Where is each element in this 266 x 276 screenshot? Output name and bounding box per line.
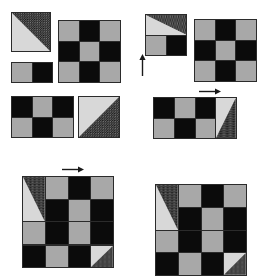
cell-black [202, 185, 224, 207]
cell-gray [179, 253, 201, 275]
cell-triangle-speckled [156, 185, 178, 230]
cell-gray [202, 231, 224, 253]
cell-gray [202, 208, 224, 230]
cell-black [224, 231, 246, 253]
cell-gray [179, 185, 201, 207]
cell-black [156, 253, 178, 275]
cell-black [179, 231, 201, 253]
cell-black [224, 208, 246, 230]
cell-black [179, 208, 201, 230]
tile-assembled-4x4[interactable] [155, 184, 247, 276]
cell-gray [156, 231, 178, 253]
cell-gray [224, 185, 246, 207]
cell-triangle-speckled [224, 253, 246, 275]
cell-black [202, 253, 224, 275]
